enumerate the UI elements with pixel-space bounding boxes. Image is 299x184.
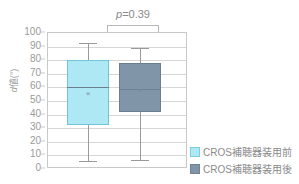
legend-item-after[interactable]: CROS補聴器装用後 <box>190 161 292 176</box>
legend: CROS補聴器装用前 CROS補聴器装用後 <box>190 144 292 176</box>
y-tick-mark-30 <box>41 127 45 128</box>
whisker-upper-after <box>140 48 141 63</box>
y-tick-mark-50 <box>41 100 45 101</box>
y-tick-label-50: 50 <box>30 95 41 105</box>
whisker-upper-before <box>88 43 89 61</box>
y-tick-mark-0 <box>41 168 45 169</box>
mean-marker-after: × <box>138 87 143 95</box>
y-tick-label-90: 90 <box>30 41 41 51</box>
plot-area: × × <box>47 32 187 168</box>
y-tick-mark-100 <box>41 32 45 33</box>
y-tick-mark-70 <box>41 72 45 73</box>
legend-swatch-after <box>190 164 200 174</box>
legend-item-before[interactable]: CROS補聴器装用前 <box>190 144 292 159</box>
y-tick-label-10: 10 <box>30 149 41 159</box>
gridline-10 <box>48 155 186 156</box>
gridline-90 <box>48 47 186 48</box>
legend-swatch-before <box>190 147 200 157</box>
y-tick-mark-60 <box>41 86 45 87</box>
legend-label-before: CROS補聴器装用前 <box>203 144 292 159</box>
y-tick-label-80: 80 <box>30 54 41 64</box>
y-tick-mark-40 <box>41 113 45 114</box>
whisker-lower-after <box>140 112 141 160</box>
p-value-rest: =0.39 <box>122 8 150 20</box>
box-plot-figure: d値(°) 100 90 80 70 60 50 40 30 20 10 0 <box>0 0 299 184</box>
y-tick-mark-10 <box>41 154 45 155</box>
p-value-label: p=0.39 <box>99 8 167 20</box>
y-tick-label-60: 60 <box>30 81 41 91</box>
whisker-cap-upper-after <box>131 48 149 49</box>
gridline-30 <box>48 128 186 129</box>
y-tick-mark-20 <box>41 140 45 141</box>
y-axis-ticks: 100 90 80 70 60 50 40 30 20 10 0 <box>0 32 44 168</box>
whisker-cap-lower-after <box>131 160 149 161</box>
y-tick-label-20: 20 <box>30 136 41 146</box>
significance-bracket <box>107 25 159 32</box>
y-tick-label-30: 30 <box>30 122 41 132</box>
y-tick-mark-80 <box>41 59 45 60</box>
whisker-cap-upper-before <box>79 43 97 44</box>
mean-marker-before: × <box>86 90 91 98</box>
legend-label-after: CROS補聴器装用後 <box>203 161 292 176</box>
whisker-cap-lower-before <box>79 161 97 162</box>
whisker-lower-before <box>88 125 89 160</box>
y-tick-label-100: 100 <box>24 27 41 37</box>
gridline-20 <box>48 142 186 143</box>
y-tick-mark-90 <box>41 45 45 46</box>
y-tick-label-40: 40 <box>30 109 41 119</box>
y-tick-label-70: 70 <box>30 68 41 78</box>
